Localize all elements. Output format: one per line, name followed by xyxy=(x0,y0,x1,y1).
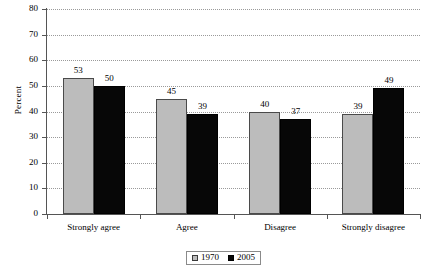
bar-value-label: 37 xyxy=(280,107,311,116)
bar-2005-disagree xyxy=(280,119,311,214)
y-tick-mark xyxy=(42,35,46,36)
black-square-marker xyxy=(228,255,234,261)
x-tick-mark xyxy=(420,215,421,219)
y-tick-mark xyxy=(42,9,46,10)
y-tick-label: 70 xyxy=(4,30,38,39)
bar-value-label: 50 xyxy=(94,74,125,83)
x-category-label: Agree xyxy=(140,222,233,232)
bar-2005-agree xyxy=(187,114,218,214)
y-tick-mark xyxy=(42,60,46,61)
y-tick-mark xyxy=(42,188,46,189)
y-tick-mark xyxy=(42,163,46,164)
bar-1970-agree xyxy=(156,99,187,214)
bar-chart: Percent 01020304050607080 53504539403739… xyxy=(0,0,429,273)
bar-value-label: 39 xyxy=(187,102,218,111)
bar-2005-strongly-disagree xyxy=(373,88,404,214)
x-tick-mark xyxy=(327,215,328,219)
bar-1970-strongly-disagree xyxy=(342,114,373,214)
legend-label: 1970 xyxy=(201,253,219,262)
x-category-label: Strongly agree xyxy=(47,222,140,232)
y-tick-label: 30 xyxy=(4,132,38,141)
y-tick-label: 0 xyxy=(4,209,38,218)
y-tick-label: 60 xyxy=(4,55,38,64)
bar-value-label: 53 xyxy=(63,66,94,75)
y-tick-mark xyxy=(42,112,46,113)
bar-value-label: 49 xyxy=(373,76,404,85)
x-category-label: Strongly disagree xyxy=(327,222,420,232)
legend-entry-2005[interactable]: 2005 xyxy=(228,253,255,262)
bar-1970-disagree xyxy=(249,112,280,215)
bar-value-label: 40 xyxy=(249,100,280,109)
y-axis-title: Percent xyxy=(13,60,23,140)
bar-1970-strongly-agree xyxy=(63,78,94,214)
bar-2005-strongly-agree xyxy=(94,86,125,214)
y-tick-mark xyxy=(42,214,46,215)
x-category-label: Disagree xyxy=(234,222,327,232)
x-tick-mark xyxy=(234,215,235,219)
y-tick-label: 80 xyxy=(4,4,38,13)
y-tick-mark xyxy=(42,137,46,138)
bar-value-label: 39 xyxy=(342,102,373,111)
y-tick-label: 40 xyxy=(4,107,38,116)
x-tick-mark xyxy=(47,215,48,219)
y-tick-mark xyxy=(42,86,46,87)
legend-entry-1970[interactable]: 1970 xyxy=(192,253,219,262)
legend-label: 2005 xyxy=(237,253,255,262)
chart-legend: 19702005 xyxy=(186,251,261,265)
plot-area xyxy=(47,9,420,214)
bar-value-label: 45 xyxy=(156,87,187,96)
y-tick-label: 20 xyxy=(4,158,38,167)
light-gray-square-marker xyxy=(192,255,198,261)
x-tick-mark xyxy=(140,215,141,219)
y-tick-label: 10 xyxy=(4,183,38,192)
y-tick-label: 50 xyxy=(4,81,38,90)
